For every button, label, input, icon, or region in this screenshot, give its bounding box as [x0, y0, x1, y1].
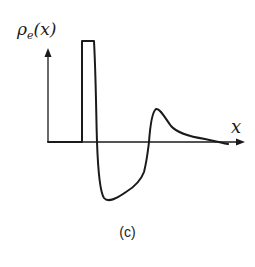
figure-caption: (c) [0, 224, 255, 240]
density-curve [48, 41, 228, 200]
charge-density-diagram: ρe(x) x (c) [0, 0, 255, 267]
y-axis-label: ρe(x) [17, 19, 56, 42]
x-axis-label: x [231, 116, 241, 137]
y-axis-arrow-icon [45, 48, 52, 57]
x-axis-arrow-icon [236, 139, 245, 146]
